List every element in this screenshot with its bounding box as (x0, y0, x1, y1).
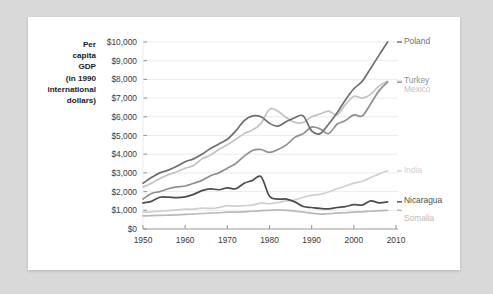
y-tick-label: $0 (128, 224, 138, 234)
y-tick-label: $2,000 (111, 187, 137, 197)
x-tick-label: 1970 (218, 235, 237, 245)
x-tick-label: 1980 (260, 235, 279, 245)
chart-card: $0$1,000$2,000$3,000$4,000$5,000$6,000$7… (28, 17, 460, 270)
screenshot-root: $0$1,000$2,000$3,000$4,000$5,000$6,000$7… (0, 0, 493, 294)
y-axis-title-line: dollars) (67, 96, 97, 105)
x-tick-label: 1990 (302, 235, 321, 245)
gridlines (143, 42, 398, 210)
series-line-turkey[interactable] (143, 82, 388, 199)
y-tick-label: $10,000 (107, 37, 138, 47)
y-tick-label: $6,000 (111, 112, 137, 122)
series-label-india: India (404, 165, 423, 175)
y-axis-title-line: international (47, 85, 96, 94)
y-axis-tick-labels: $0$1,000$2,000$3,000$4,000$5,000$6,000$7… (107, 37, 147, 234)
y-tick-label: $7,000 (111, 93, 137, 103)
y-tick-label: $9,000 (111, 56, 137, 66)
x-tick-label: 2010 (387, 235, 406, 245)
series-label-mexico: Mexico (404, 84, 431, 94)
y-tick-label: $1,000 (111, 205, 137, 215)
y-tick-label: $8,000 (111, 74, 137, 84)
data-series-lines (143, 42, 388, 216)
series-line-somalia[interactable] (143, 210, 388, 216)
y-tick-label: $3,000 (111, 168, 137, 178)
chart-container: $0$1,000$2,000$3,000$4,000$5,000$6,000$7… (28, 17, 460, 270)
line-chart[interactable]: $0$1,000$2,000$3,000$4,000$5,000$6,000$7… (28, 17, 460, 270)
y-axis-title-line: (in 1990 (66, 74, 97, 83)
x-tick-label: 1950 (134, 235, 153, 245)
y-axis-title: PercapitaGDP(in 1990internationaldollars… (47, 40, 96, 105)
series-labels: PolandTurkeyMexicoIndiaNicaraguaSomalia (397, 36, 443, 223)
y-tick-label: $5,000 (111, 131, 137, 141)
y-tick-label: $4,000 (111, 149, 137, 159)
x-tick-label: 2000 (345, 235, 364, 245)
x-axis-tick-labels: 1950196019701980199020002010 (134, 235, 406, 245)
series-label-nicaragua: Nicaragua (404, 195, 443, 205)
series-label-poland: Poland (404, 36, 430, 46)
y-axis-title-line: capita (73, 51, 97, 60)
series-line-mexico[interactable] (143, 81, 388, 187)
x-axis (143, 40, 398, 229)
series-label-somalia: Somalia (404, 213, 435, 223)
y-axis-title-line: Per (83, 40, 97, 49)
y-axis-title-line: GDP (78, 62, 96, 71)
x-tick-label: 1960 (176, 235, 195, 245)
series-line-poland[interactable] (143, 42, 388, 183)
